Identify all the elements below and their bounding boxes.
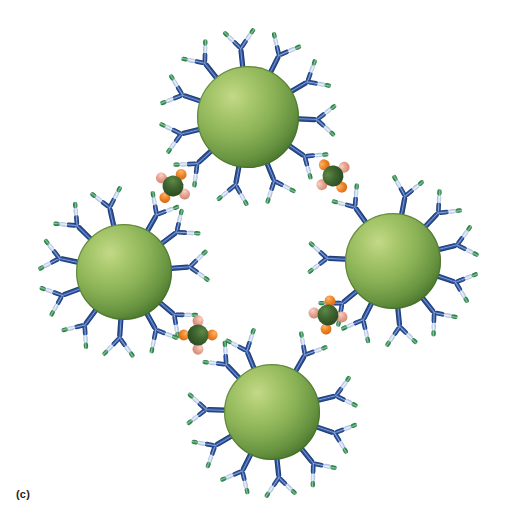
antibody-arm-left-tip — [192, 181, 197, 188]
antibody-arm-left-light-chain — [83, 335, 88, 343]
antibody-arm-right-light-chain — [317, 81, 326, 87]
antibody-arm-left-tip — [178, 208, 184, 216]
nanoparticle-left-antibody-5 — [169, 249, 211, 283]
nanoparticle-left-antibody-2 — [89, 185, 122, 228]
nanoparticle-left-antibody-10 — [39, 285, 83, 317]
antibody-arm-right-tip — [194, 231, 201, 236]
antibody-arm-right-tip — [324, 83, 331, 88]
antigen-core — [316, 303, 340, 327]
nanoparticle-bottom-antibody-9 — [314, 422, 358, 454]
nanoparticle-right — [345, 213, 441, 309]
nanoparticle-top-antibody-9 — [159, 73, 203, 105]
antibody-arm-left-tip — [322, 152, 329, 157]
nanoparticle-bottom-antibody-10 — [298, 445, 337, 487]
antibody-arm-right-tip — [149, 346, 154, 353]
antibody-arm-right-light-chain — [187, 231, 195, 236]
nanoparticle-right-antibody-3 — [384, 306, 418, 348]
antibody-arm-right-tip — [431, 330, 435, 337]
nanoparticle-top-antibody-3 — [296, 103, 337, 137]
nanoparticle-right-antibody-10 — [422, 189, 462, 230]
antibody-arm-right-hinge — [307, 80, 318, 86]
nanoparticle-left — [76, 224, 172, 320]
antibody-arm-left-light-chain — [243, 480, 249, 489]
nanoparticle-bottom-antibody-3 — [186, 392, 227, 426]
antibody-arm-left-tip — [181, 56, 188, 62]
antibody-arm-right-hinge — [311, 463, 316, 474]
bridge-right-to-bottom-antibody-b — [292, 331, 328, 374]
nanoparticle-top-antibody-2 — [288, 59, 331, 95]
nanoparticle-layer — [76, 66, 441, 460]
antibody-arm-left-tip — [53, 221, 60, 226]
antibody-arm-left-tip — [299, 331, 304, 338]
antibody-arm-left-tip — [330, 465, 337, 471]
antibody-arm-right-hinge — [432, 313, 437, 324]
nanoparticle-right-antibody-4 — [340, 300, 375, 344]
antibody-arm-right-light-chain — [67, 325, 76, 331]
nanoparticle-right-antibody-1 — [435, 271, 479, 303]
antibody-arm-right-hinge — [353, 196, 358, 207]
antibody-arm-right-hinge — [51, 290, 63, 298]
nanoparticle-top-antibody-6 — [216, 164, 250, 207]
antibody-arm-right-light-chain — [73, 207, 78, 215]
antigen-core — [188, 325, 209, 346]
nanoparticle-bottom-antibody-2 — [191, 433, 234, 469]
nanoparticle-top — [197, 66, 299, 168]
antibody-arm-left-tip — [437, 189, 442, 196]
antibody-arm-left-light-chain — [337, 200, 346, 206]
antibody-arm-right-tip — [191, 439, 198, 444]
antibody-arm-left-light-chain — [184, 313, 192, 317]
antibody-arm-left-light-chain — [59, 222, 67, 227]
antibody-arm-right-hinge — [269, 180, 277, 192]
antibody-stem — [296, 116, 317, 122]
antibody-arm-right-hinge — [204, 441, 215, 447]
antibody-arm-left-light-chain — [315, 153, 323, 158]
antibody-arm-right-hinge — [245, 340, 253, 352]
nanoparticle-bottom-antibody-8 — [315, 375, 359, 408]
antibody-arm-left-tip — [365, 336, 371, 344]
nanoparticle-top-antibody-10 — [181, 39, 220, 81]
antibody-arm-right-light-chain — [311, 474, 315, 482]
panel-label: (c) — [16, 489, 30, 500]
antibody-arm-right-hinge — [223, 353, 228, 364]
antibody-arm-left-light-chain — [323, 463, 332, 469]
antibody-arm-left-light-chain — [187, 58, 196, 64]
antibody-arm-right-tip — [354, 183, 359, 190]
antibody-arm-left-light-chain — [444, 313, 453, 319]
antibody-arm-right-light-chain — [203, 45, 207, 53]
antibody-arm-right-tip — [73, 201, 78, 208]
nanoparticle-top-antibody-0 — [222, 27, 256, 69]
nanoparticle-bottom — [224, 364, 320, 460]
antibody-arm-left-tip — [271, 32, 277, 40]
antibody-arm-right-light-chain — [150, 339, 156, 348]
nanoparticle-bottom-antibody-0 — [264, 456, 298, 498]
antibody-arm-left-tip — [202, 360, 209, 365]
antibody-arm-right-tip — [311, 481, 315, 488]
nanoparticle-top-antibody-5 — [264, 160, 297, 204]
antibody-arm-left-light-chain — [177, 214, 183, 223]
antibody-arm-right-light-chain — [174, 324, 180, 333]
nanoparticle-left-antibody-1 — [53, 201, 94, 242]
antibody-arm-right-tip — [173, 162, 180, 167]
antibody-arm-right-hinge — [177, 230, 188, 235]
antibody-arm-left-light-chain — [193, 173, 198, 181]
antibody-arm-left-light-chain — [151, 196, 157, 205]
antibody-arm-left-tip — [451, 314, 458, 320]
antibody-arm-left-light-chain — [363, 329, 369, 338]
nanoparticle-bottom-antibody-1 — [219, 451, 254, 495]
nanoparticle-top-antibody-8 — [159, 122, 203, 155]
antibody-stem — [206, 407, 227, 413]
antibody-arm-left-light-chain — [437, 195, 442, 203]
antibody-arm-left-tip — [150, 191, 155, 198]
antibody-arm-left-light-chain — [208, 360, 216, 365]
antibody-arm-right-tip — [455, 208, 462, 213]
antibody-arm-right-light-chain — [223, 346, 228, 354]
nanoparticle-right-antibody-9 — [391, 174, 425, 217]
antigen-lower-left — [178, 315, 217, 354]
antibody-arm-left-light-chain — [300, 337, 306, 346]
antibody-arm-right-tip — [318, 301, 325, 305]
nanoparticle-left-antibody-8 — [101, 317, 135, 359]
antibody-arm-right-light-chain — [432, 323, 436, 331]
nanoparticle-right-antibody-6 — [307, 241, 348, 275]
nanoparticle-left-antibody-0 — [37, 238, 80, 271]
antibody-arm-right-light-chain — [354, 189, 359, 197]
